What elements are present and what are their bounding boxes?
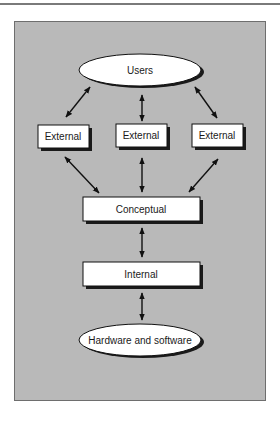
external-label-2: External (123, 130, 160, 141)
external-label-3: External (199, 130, 236, 141)
internal-label: Internal (124, 269, 157, 280)
hardware-label: Hardware and software (88, 335, 191, 346)
arrow-users-external3 (195, 87, 217, 118)
conceptual-label: Conceptual (116, 204, 167, 215)
arrow-external1-conceptual (65, 157, 99, 193)
external-label-1: External (45, 131, 82, 142)
arrow-users-external1 (66, 87, 90, 117)
users-label: Users (127, 65, 153, 76)
arrow-external3-conceptual (189, 159, 218, 192)
